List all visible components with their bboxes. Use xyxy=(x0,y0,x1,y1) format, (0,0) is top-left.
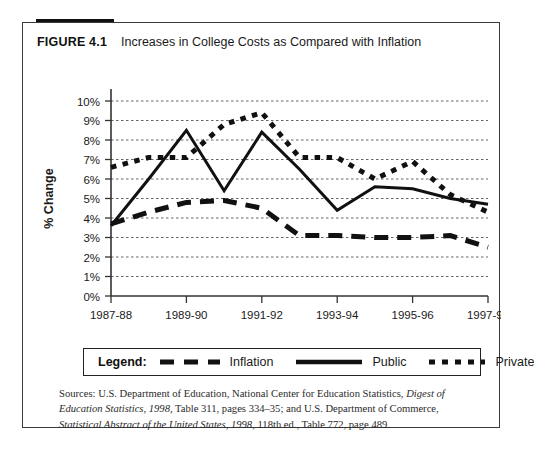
source-note: Sources: U.S. Department of Education, N… xyxy=(59,386,469,432)
chart-area: 0%1%2%3%4%5%6%7%8%9%10% 1987-881989-9019… xyxy=(23,53,501,333)
svg-text:6%: 6% xyxy=(83,174,100,186)
svg-text:2%: 2% xyxy=(83,252,100,264)
svg-text:1993-94: 1993-94 xyxy=(316,309,359,321)
source-line2-italic2: Statistical Abstract of the xyxy=(59,419,166,430)
svg-text:1991-92: 1991-92 xyxy=(241,309,283,321)
dashed-line-icon xyxy=(159,357,221,367)
source-line1-a: Sources: U.S. Department of Education, N… xyxy=(59,388,406,399)
svg-text:4%: 4% xyxy=(83,213,100,225)
source-line3-italic: United States, 1998, xyxy=(169,419,255,430)
legend-label-inflation: Inflation xyxy=(230,355,274,369)
svg-text:7%: 7% xyxy=(83,154,100,166)
series-line-private xyxy=(111,113,488,212)
svg-text:1997-98: 1997-98 xyxy=(467,309,501,321)
legend-title: Legend: xyxy=(98,355,147,369)
data-series-layer xyxy=(111,113,488,248)
svg-text:8%: 8% xyxy=(83,135,100,147)
figure-title-row: FIGURE 4.1 Increases in College Costs as… xyxy=(37,35,489,55)
page-title: Increases in College Costs as Compared w… xyxy=(121,35,421,49)
svg-text:10%: 10% xyxy=(77,96,100,108)
figure-number: FIGURE 4.1 xyxy=(37,35,107,49)
svg-text:1995-96: 1995-96 xyxy=(391,309,433,321)
svg-text:5%: 5% xyxy=(83,193,100,205)
solid-line-icon xyxy=(295,357,363,367)
y-axis-ticks xyxy=(105,101,111,296)
x-axis-ticks xyxy=(111,296,488,303)
source-line2-a: Table 311, pages 334–35; and U.S. Depart… xyxy=(173,403,439,414)
series-line-inflation xyxy=(111,200,488,247)
legend-item-private: Private xyxy=(428,355,534,369)
dotted-line-icon xyxy=(428,357,486,367)
svg-text:3%: 3% xyxy=(83,232,100,244)
legend-item-inflation: Inflation xyxy=(159,355,274,369)
line-chart: 0%1%2%3%4%5%6%7%8%9%10% 1987-881989-9019… xyxy=(23,53,501,333)
svg-text:1989-90: 1989-90 xyxy=(165,309,207,321)
legend-label-private: Private xyxy=(495,355,534,369)
source-line3-a: 118th ed., Table 772, page 489. xyxy=(255,419,390,430)
svg-text:1%: 1% xyxy=(83,271,100,283)
svg-text:9%: 9% xyxy=(83,115,100,127)
y-axis-title: % Change xyxy=(42,168,56,228)
y-axis-tick-labels: 0%1%2%3%4%5%6%7%8%9%10% xyxy=(77,96,100,303)
svg-text:% Change: % Change xyxy=(42,168,56,228)
figure-frame: FIGURE 4.1 Increases in College Costs as… xyxy=(22,22,500,428)
svg-text:0%: 0% xyxy=(83,291,100,303)
source-line2-italic: Statistics, 1998, xyxy=(105,403,172,414)
svg-text:1987-88: 1987-88 xyxy=(90,309,132,321)
legend-label-public: Public xyxy=(372,355,406,369)
gridlines xyxy=(111,101,488,277)
x-axis-tick-labels: 1987-881989-901991-921993-941995-961997-… xyxy=(90,309,501,321)
chart-legend: Legend: Inflation Public Private xyxy=(83,348,481,376)
legend-item-public: Public xyxy=(295,355,406,369)
